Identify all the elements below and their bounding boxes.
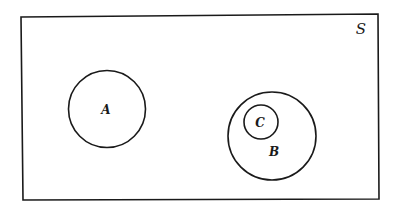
set-b-circle (228, 92, 316, 180)
venn-diagram: S A B C (0, 0, 399, 211)
universe-rectangle (21, 14, 379, 200)
set-b-label: B (268, 145, 279, 159)
set-a-label: A (100, 103, 110, 117)
universe-label: S (356, 20, 366, 38)
set-c-label: C (255, 116, 265, 130)
